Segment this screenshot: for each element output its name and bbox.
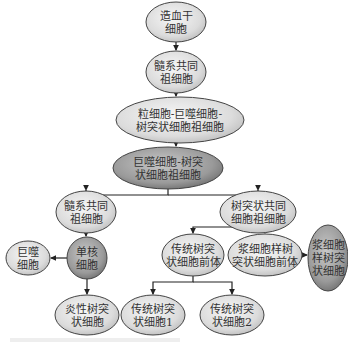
node-label: 状细胞前体	[166, 255, 221, 269]
node-cdc2: 传统树突状细胞2	[200, 295, 264, 335]
edge-precdc-to-cdc1	[150, 276, 193, 295]
node-label: 状细胞2	[212, 315, 252, 329]
arrowhead-icon	[84, 289, 90, 295]
arrowhead-icon	[150, 289, 156, 295]
node-label: 单核	[76, 245, 98, 259]
node-label: 浆细胞样树	[238, 242, 293, 256]
node-label: 造血干	[160, 9, 193, 23]
arrowhead-icon	[50, 255, 56, 261]
node-pdc: 浆细胞样树突状细胞	[308, 225, 348, 291]
edge-mono-to-infdc	[84, 279, 90, 295]
node-label: 细胞	[76, 259, 98, 272]
nodes-layer: 造血干细胞髓系共同祖细胞粒细胞-巨噬细胞-树突状细胞祖细胞巨噬细胞-树突状细胞祖…	[6, 2, 348, 335]
node-label: 状细胞1	[133, 315, 173, 329]
node-gmdp: 粒细胞-巨噬细胞-树突状细胞祖细胞	[116, 97, 244, 143]
node-label: 巨噬细胞-树突	[133, 155, 203, 169]
node-label: 炎性树突	[65, 302, 109, 316]
node-label: 突状细胞前体	[232, 255, 298, 269]
node-label: 树突状共同	[231, 199, 286, 213]
node-label: 粒细胞-巨噬细胞-	[138, 107, 223, 121]
node-cmp: 髓系共同祖细胞	[146, 51, 206, 93]
node-label: 状细胞	[71, 315, 104, 329]
node-label: 细胞祖细胞	[231, 212, 286, 226]
arrowhead-icon	[302, 252, 308, 258]
node-label: 髓系共同	[64, 200, 108, 213]
edge-mono-to-mac	[50, 255, 67, 261]
connector-line	[153, 276, 193, 294]
edge-hsc-to-cmp	[173, 42, 179, 51]
cell-lineage-diagram: 造血干细胞髓系共同祖细胞粒细胞-巨噬细胞-树突状细胞祖细胞巨噬细胞-树突状细胞祖…	[0, 0, 348, 347]
node-mac: 巨噬细胞	[6, 241, 50, 275]
node-precdc: 传统树突状细胞前体	[162, 234, 224, 276]
node-label: 状细胞	[312, 264, 345, 278]
node-infdc: 炎性树突状细胞	[55, 295, 119, 335]
node-mono: 单核细胞	[67, 237, 107, 279]
node-cdp: 树突状共同细胞祖细胞	[220, 191, 296, 233]
node-hsc: 造血干细胞	[146, 2, 206, 42]
node-label: 细胞	[165, 23, 187, 36]
figure-caption-faded	[10, 338, 180, 342]
arrowhead-icon	[229, 289, 235, 295]
arrowhead-icon	[173, 45, 179, 51]
node-label: 传统树突	[171, 242, 215, 256]
node-label: 浆细胞	[312, 238, 345, 252]
node-label: 树突状细胞祖细胞	[136, 120, 224, 134]
node-cdc1: 传统树突状细胞1	[121, 295, 185, 335]
node-prepdc: 浆细胞样树突状细胞前体	[228, 234, 302, 276]
connector-line	[193, 282, 232, 294]
node-label: 祖细胞	[160, 72, 193, 86]
node-cmp2: 髓系共同祖细胞	[56, 191, 116, 233]
edge-precdc-to-cdc2	[193, 282, 235, 295]
node-label: 巨噬	[17, 245, 39, 259]
node-mdp: 巨噬细胞-树突状细胞祖细胞	[113, 147, 223, 189]
arrowhead-icon	[83, 185, 89, 191]
node-label: 细胞	[17, 259, 39, 272]
node-label: 髓系共同	[154, 60, 198, 73]
node-label: 祖细胞	[70, 212, 103, 226]
edge-prepdc-to-pdc	[302, 252, 308, 258]
arrowhead-icon	[255, 185, 261, 191]
node-label: 状细胞祖细胞	[135, 168, 201, 182]
node-label: 样树突	[312, 251, 345, 265]
arrowhead-icon	[190, 228, 196, 234]
node-label: 传统树突	[131, 302, 175, 316]
node-label: 传统树突	[210, 302, 254, 316]
